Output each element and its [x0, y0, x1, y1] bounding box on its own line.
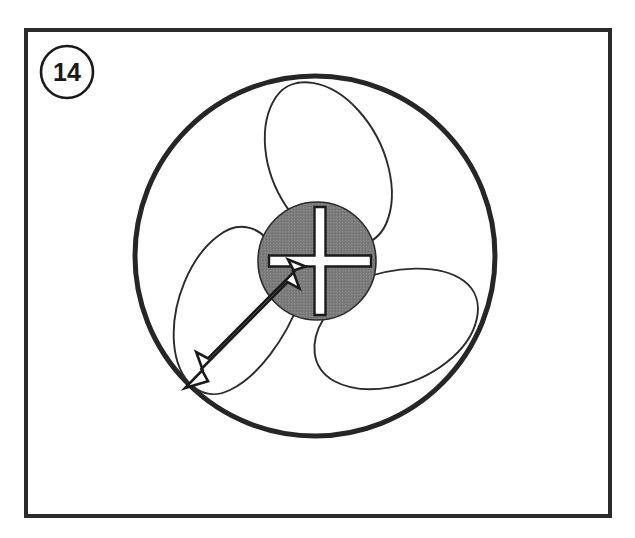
technical-drawing-canvas: 14	[0, 0, 635, 538]
figure-label-text: 14	[53, 58, 81, 86]
figure-root: 14	[0, 0, 635, 538]
figure-label-badge: 14	[41, 46, 93, 98]
